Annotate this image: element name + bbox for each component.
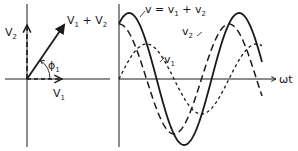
phasor-v2-label: V2 [5, 26, 17, 41]
v1-label: v1 [164, 53, 175, 68]
v2-label: v2 [182, 25, 193, 40]
phasor-sum-label: V1 + V2 [67, 14, 107, 29]
v-total-label: v = v1 + v2 [145, 3, 206, 18]
phasor-v1-label: V1 [53, 87, 65, 102]
waveform-plot: ωt v = v1 + v2 v2 v1 [119, 3, 293, 147]
phasor-waveform-diagram: V2 V1 V1 + V2 ϕ1 ωt v = v1 + v2 v2 v1 [0, 0, 298, 151]
phasor-diagram: V2 V1 V1 + V2 ϕ1 [5, 4, 110, 147]
time-axis-label: ωt [279, 73, 293, 86]
phase-angle-label: ϕ1 [48, 59, 60, 74]
v2-leader [197, 32, 202, 36]
